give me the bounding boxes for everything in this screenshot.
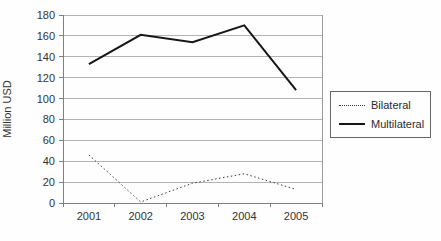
svg-text:2001: 2001 [77, 210, 101, 222]
svg-text:2004: 2004 [232, 210, 256, 222]
svg-text:180: 180 [37, 9, 55, 21]
x-axis-ticks: 20012002200320042005 [63, 203, 322, 222]
svg-text:80: 80 [43, 113, 55, 125]
multilateral-series-line [89, 25, 296, 90]
legend-item-multilateral: Multilateral [339, 118, 422, 130]
svg-text:40: 40 [43, 155, 55, 167]
legend-item-bilateral: Bilateral [339, 99, 422, 111]
line-chart-figure: 0204060801001201401601802001200220032004… [0, 0, 441, 241]
bilateral-series-line [89, 155, 296, 202]
legend: Bilateral Multilateral [330, 91, 431, 138]
gridlines [63, 15, 322, 182]
y-axis-ticks: 020406080100120140160180 [37, 9, 63, 209]
svg-text:140: 140 [37, 51, 55, 63]
bilateral-line-swatch [339, 105, 365, 106]
svg-text:120: 120 [37, 72, 55, 84]
y-axis-title: Million USD [1, 69, 13, 149]
legend-label-bilateral: Bilateral [371, 99, 411, 111]
svg-text:2003: 2003 [180, 210, 204, 222]
svg-text:0: 0 [49, 197, 55, 209]
legend-label-multilateral: Multilateral [371, 118, 424, 130]
svg-text:20: 20 [43, 176, 55, 188]
multilateral-line-swatch [339, 123, 365, 125]
svg-text:160: 160 [37, 30, 55, 42]
svg-text:100: 100 [37, 93, 55, 105]
svg-text:2005: 2005 [284, 210, 308, 222]
svg-text:2002: 2002 [128, 210, 152, 222]
svg-text:60: 60 [43, 134, 55, 146]
